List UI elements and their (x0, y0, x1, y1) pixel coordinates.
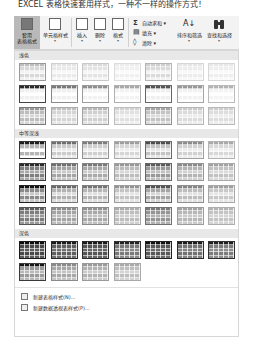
table-style-thumbnail[interactable] (208, 107, 235, 125)
group-divider (71, 18, 72, 47)
format-as-table-button[interactable]: 套用 表格格式 (14, 16, 40, 49)
table-style-thumbnail[interactable] (51, 163, 78, 181)
table-style-thumbnail[interactable] (82, 163, 109, 181)
table-style-thumbnail[interactable] (114, 185, 141, 203)
table-style-thumbnail[interactable] (145, 63, 172, 81)
new-table-style-icon (21, 293, 28, 300)
clear-button[interactable]: ◊ 清除 ▾ (133, 38, 171, 46)
find-select-button[interactable]: 查找和选择 ▾ (204, 16, 234, 49)
table-style-thumbnail[interactable] (19, 185, 46, 203)
autosum-button[interactable]: Σ 自动求和 ▾ (133, 19, 171, 27)
table-style-thumbnail[interactable] (208, 63, 235, 81)
fill-button[interactable]: ▤ 填充 ▾ (133, 28, 171, 36)
table-style-thumbnail[interactable] (145, 163, 172, 181)
table-style-thumbnail[interactable] (19, 63, 46, 81)
sort-filter-button[interactable]: A↓ 排序和筛选 ▾ (174, 16, 204, 49)
table-style-thumbnail[interactable] (208, 185, 235, 203)
thumbnail-row (115, 156, 140, 158)
delete-cells-button[interactable]: 删除 ▾ (91, 16, 109, 49)
table-style-thumbnail[interactable] (114, 107, 141, 125)
thumbnail-row (209, 122, 234, 124)
table-style-thumbnail[interactable] (19, 141, 46, 159)
thumbnail-row (52, 156, 77, 158)
table-style-thumbnail[interactable] (51, 63, 78, 81)
table-style-thumbnail[interactable] (145, 85, 172, 103)
thumbnail-row (52, 78, 77, 80)
table-style-thumbnail[interactable] (208, 241, 235, 259)
thumbnail-row (83, 200, 108, 202)
table-style-thumbnail[interactable] (51, 185, 78, 203)
sigma-icon: Σ (133, 19, 140, 27)
table-style-thumbnail[interactable] (114, 207, 141, 225)
thumbnail-row (20, 256, 45, 258)
cell-styles-icon (49, 18, 61, 30)
insert-cells-button[interactable]: 插入 ▾ (73, 16, 91, 49)
table-style-thumbnail[interactable] (82, 63, 109, 81)
table-style-thumbnail[interactable] (19, 107, 46, 125)
table-style-thumbnail[interactable] (145, 185, 172, 203)
table-style-thumbnail[interactable] (114, 241, 141, 259)
thumbnail-row (52, 256, 77, 258)
thumbnail-row (20, 100, 45, 102)
thumbnail-row (146, 222, 171, 224)
table-style-thumbnail[interactable] (114, 163, 141, 181)
binoculars-icon (213, 18, 225, 30)
format-cells-button[interactable]: 格式 ▾ (109, 16, 127, 49)
table-style-thumbnail[interactable] (82, 263, 109, 281)
table-style-thumbnail[interactable] (51, 241, 78, 259)
table-style-thumbnail[interactable] (208, 163, 235, 181)
thumbnail-row (83, 122, 108, 124)
thumbnail-row (209, 256, 234, 258)
thumbnail-row (83, 256, 108, 258)
table-style-thumbnail[interactable] (145, 107, 172, 125)
table-style-thumbnail[interactable] (177, 163, 204, 181)
table-style-thumbnail[interactable] (177, 85, 204, 103)
thumbnail-row (178, 78, 203, 80)
new-table-style-menu-item[interactable]: 新建表格样式(N)... (15, 291, 238, 302)
group-divider (128, 18, 129, 47)
table-style-thumbnail[interactable] (51, 107, 78, 125)
table-style-thumbnail[interactable] (82, 241, 109, 259)
table-style-thumbnail[interactable] (82, 141, 109, 159)
table-style-thumbnail[interactable] (51, 263, 78, 281)
table-style-thumbnail[interactable] (19, 207, 46, 225)
table-style-thumbnail[interactable] (19, 241, 46, 259)
table-style-thumbnail[interactable] (19, 163, 46, 181)
thumbnail-row (20, 78, 45, 80)
table-style-thumbnail[interactable] (51, 85, 78, 103)
new-pivot-style-menu-item[interactable]: 新建数据透视表样式(P)... (15, 302, 238, 313)
table-style-thumbnail[interactable] (177, 207, 204, 225)
table-style-thumbnail[interactable] (145, 241, 172, 259)
table-style-thumbnail[interactable] (19, 85, 46, 103)
table-style-thumbnail[interactable] (51, 141, 78, 159)
table-style-thumbnail[interactable] (19, 263, 46, 281)
table-style-thumbnail[interactable] (208, 141, 235, 159)
thumbnail-row (20, 122, 45, 124)
thumbnail-row (83, 100, 108, 102)
thumbnail-row (115, 278, 140, 280)
table-style-thumbnail[interactable] (145, 207, 172, 225)
cell-styles-button[interactable]: 单元格样式 ▾ (40, 16, 70, 49)
table-style-thumbnail[interactable] (177, 141, 204, 159)
table-style-thumbnail[interactable] (208, 85, 235, 103)
table-style-thumbnail[interactable] (82, 185, 109, 203)
table-style-thumbnail[interactable] (145, 141, 172, 159)
dark-styles-grid (15, 238, 238, 285)
table-style-thumbnail[interactable] (177, 63, 204, 81)
table-style-thumbnail[interactable] (114, 263, 141, 281)
table-style-thumbnail[interactable] (177, 185, 204, 203)
table-style-thumbnail[interactable] (51, 207, 78, 225)
table-style-thumbnail[interactable] (114, 85, 141, 103)
table-style-thumbnail[interactable] (208, 207, 235, 225)
thumbnail-row (83, 222, 108, 224)
table-style-thumbnail[interactable] (177, 241, 204, 259)
document-caption: EXCEL 表格快速套用样式，一种不一样的操作方式！ (0, 0, 260, 12)
table-style-thumbnail[interactable] (114, 63, 141, 81)
table-style-thumbnail[interactable] (82, 85, 109, 103)
section-header-light: 浅色 (15, 51, 238, 60)
table-style-thumbnail[interactable] (82, 207, 109, 225)
table-style-thumbnail[interactable] (82, 107, 109, 125)
thumbnail-row (209, 200, 234, 202)
table-style-thumbnail[interactable] (177, 107, 204, 125)
table-style-thumbnail[interactable] (114, 141, 141, 159)
